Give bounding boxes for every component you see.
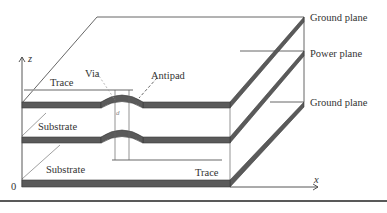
label-ground-plane-bottom: Ground plane: [310, 97, 368, 108]
label-origin: 0: [11, 181, 16, 192]
label-trace-top: Trace: [50, 77, 74, 88]
label-power-plane: Power plane: [310, 48, 363, 59]
label-substrate-lower: Substrate: [46, 164, 85, 175]
label-ground-plane-top: Ground plane: [310, 12, 368, 23]
z-axis: [19, 57, 25, 187]
label-substrate-upper: Substrate: [38, 121, 77, 132]
label-axis-x: x: [313, 174, 319, 185]
x-axis: [230, 184, 318, 190]
label-trace-bottom: Trace: [195, 167, 219, 178]
label-antipad: Antipad: [151, 70, 186, 81]
label-via-diameter: d: [116, 109, 120, 117]
label-axis-z: z: [27, 53, 32, 64]
label-via: Via: [85, 68, 100, 79]
ground-plane-bottom-front: [22, 180, 230, 187]
ground-plane-top-front: [22, 95, 230, 108]
antipad-leader: [139, 78, 157, 98]
via-leader: [97, 73, 115, 100]
pcb-stackup-diagram: Ground plane Power plane Ground plane Tr…: [0, 0, 387, 213]
